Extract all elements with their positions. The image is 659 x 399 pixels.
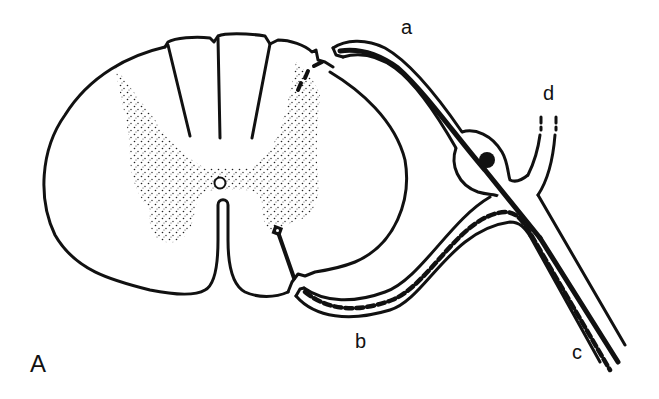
label-b: b: [355, 330, 366, 353]
label-d: d: [543, 82, 554, 105]
dorsal-root-ganglion: [454, 131, 528, 196]
spinal-cord-diagram: [0, 0, 659, 399]
dorsal-root-a: [333, 41, 540, 238]
panel-label: A: [30, 350, 46, 378]
spinal-cord-outline: [44, 34, 407, 297]
label-c: c: [572, 341, 582, 364]
central-canal: [215, 178, 226, 189]
ventral-root-b: [296, 197, 610, 370]
ramus-d: [528, 117, 556, 195]
ganglion-cell-body: [479, 152, 495, 168]
motor-neuron: [272, 225, 294, 278]
spinal-nerve-c: [530, 195, 625, 362]
label-a: a: [401, 16, 412, 39]
